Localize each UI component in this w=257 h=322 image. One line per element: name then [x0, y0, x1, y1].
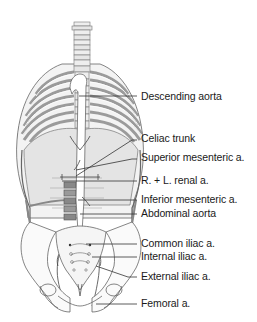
label-superior-mesenteric: Superior mesenteric a. — [141, 151, 244, 163]
label-descending-aorta: Descending aorta — [141, 90, 222, 102]
label-abdominal-aorta: Abdominal aorta — [141, 207, 216, 219]
label-common-iliac: Common iliac a. — [141, 237, 215, 249]
label-internal-iliac: Internal iliac a. — [141, 250, 207, 262]
label-celiac-trunk: Celiac trunk — [141, 132, 195, 144]
label-inferior-mesenteric: Inferior mesenteric a. — [141, 193, 237, 205]
pelvis — [21, 222, 141, 312]
label-renal: R. + L. renal a. — [141, 174, 209, 186]
label-external-iliac: External iliac a. — [141, 270, 211, 282]
label-femoral: Femoral a. — [141, 297, 190, 309]
